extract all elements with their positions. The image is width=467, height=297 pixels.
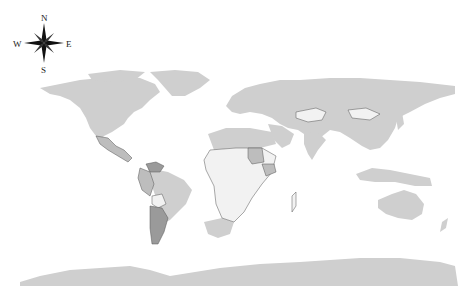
region-north-america	[40, 76, 160, 140]
compass-north-label: N	[41, 13, 48, 23]
region-southeast-asia	[356, 168, 432, 186]
region-central-africa	[204, 148, 276, 222]
world-map: N S W E	[0, 0, 467, 297]
region-mexico	[96, 136, 132, 162]
compass-south-label: S	[41, 65, 46, 75]
region-madagascar	[292, 192, 296, 212]
region-australia	[378, 190, 424, 220]
region-sudan	[248, 148, 264, 164]
region-south-africa	[204, 218, 234, 238]
compass-east-label: E	[66, 39, 72, 49]
region-india	[304, 132, 326, 160]
compass-star-icon	[24, 23, 64, 63]
region-antarctica	[20, 258, 458, 286]
compass-rose: N S W E	[13, 13, 72, 75]
region-north-africa	[208, 128, 276, 150]
region-new-zealand	[440, 218, 448, 232]
compass-west-label: W	[13, 39, 22, 49]
